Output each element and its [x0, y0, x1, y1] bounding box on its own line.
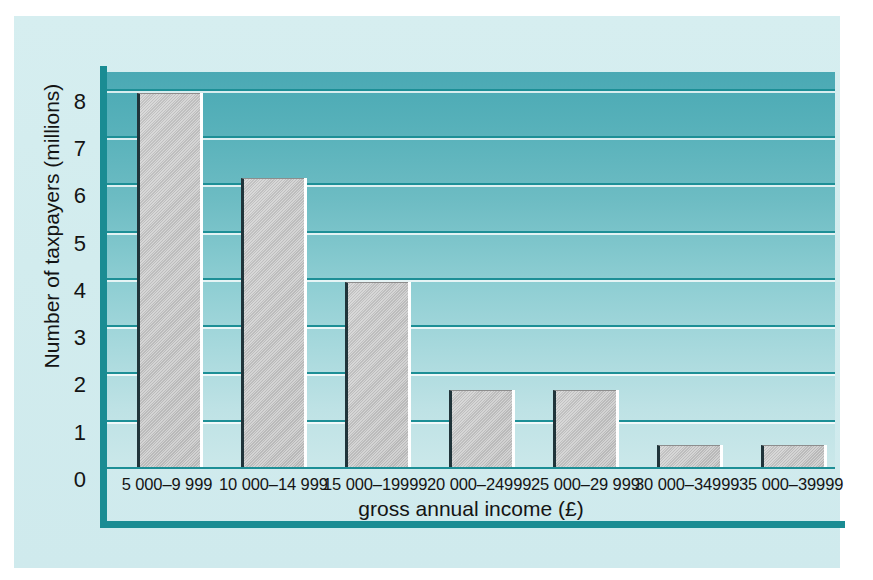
x-tick-label: 10 000–14 999 [219, 475, 323, 494]
bar [241, 178, 304, 467]
gridline-4 [107, 278, 835, 280]
plot-area [107, 72, 835, 469]
gridline-5 [107, 231, 835, 233]
bar [449, 390, 512, 467]
gridline-8 [107, 89, 835, 91]
bar [761, 445, 824, 467]
figure: 012345678 Number of taxpayers (millions)… [0, 0, 873, 580]
gridline-3 [107, 325, 835, 327]
gridline-6 [107, 183, 835, 185]
x-axis-label: gross annual income (£) [107, 497, 835, 521]
x-tick-label: 15 000–19999 [323, 475, 427, 494]
x-tick-label: 20 000–24999 [427, 475, 531, 494]
chart-frame-bottom-rule [100, 521, 845, 528]
bar [657, 445, 720, 467]
bar [137, 93, 200, 467]
y-axis-label: Number of taxpayers (millions) [40, 16, 64, 436]
x-tick-label: 30 000–34999 [635, 475, 739, 494]
chart-panel: 012345678 Number of taxpayers (millions)… [14, 16, 840, 568]
x-tick-label: 5 000–9 999 [115, 475, 219, 494]
bar [553, 390, 616, 467]
gridline-7 [107, 136, 835, 138]
gridline-2 [107, 372, 835, 374]
x-tick-label: 35 000–39999 [739, 475, 843, 494]
bar [345, 282, 408, 467]
x-axis-baseline [107, 467, 835, 469]
y-axis-spine [100, 66, 107, 528]
x-tick-label: 25 000–29 999 [531, 475, 635, 494]
